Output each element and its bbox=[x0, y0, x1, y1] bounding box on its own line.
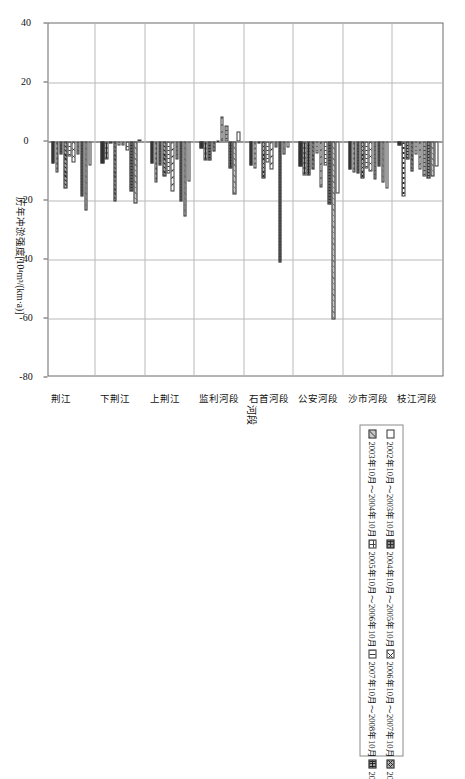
legend-label: 2003年10月～2004年10月 bbox=[366, 441, 378, 537]
legend-swatch bbox=[386, 539, 394, 548]
bar bbox=[166, 141, 170, 173]
bar bbox=[397, 141, 401, 145]
bar bbox=[55, 141, 59, 172]
value-axis-tick-label: 40 bbox=[11, 17, 41, 28]
bar bbox=[385, 141, 389, 188]
legend-label: 2006年10月～2007年10月 bbox=[384, 661, 396, 757]
bar bbox=[51, 141, 55, 163]
bar bbox=[67, 141, 71, 156]
bar bbox=[327, 141, 331, 204]
bar bbox=[348, 141, 352, 169]
bar bbox=[373, 141, 377, 179]
bar bbox=[405, 141, 409, 159]
bar bbox=[356, 141, 360, 173]
category-axis-label: 上荆江 bbox=[149, 390, 179, 404]
bar bbox=[323, 141, 327, 165]
bar bbox=[286, 141, 290, 147]
bar bbox=[352, 141, 356, 172]
legend-swatch bbox=[368, 759, 376, 768]
bar bbox=[381, 141, 385, 182]
bar bbox=[207, 141, 211, 160]
category-gridline bbox=[194, 23, 195, 375]
value-axis-tick bbox=[43, 22, 47, 23]
category-gridline bbox=[95, 23, 96, 375]
value-axis-tick-label: 20 bbox=[11, 76, 41, 87]
chart-legend: 2002年10月～2003年10月2004年10月～2005年10月2006年1… bbox=[359, 424, 403, 756]
bar bbox=[162, 141, 166, 176]
legend-item[interactable]: 2009年10月～2010年10月 bbox=[363, 759, 381, 779]
category-axis-label: 枝江河段 bbox=[396, 390, 436, 404]
legend-swatch bbox=[386, 429, 394, 438]
bar bbox=[261, 141, 265, 178]
bar bbox=[179, 141, 183, 201]
bar bbox=[71, 141, 75, 162]
category-gridline bbox=[144, 23, 145, 375]
category-axis-title: 河段 bbox=[244, 404, 259, 424]
legend-item[interactable]: 2002年10月～2003年10月 bbox=[381, 429, 399, 537]
value-gridline bbox=[48, 82, 442, 83]
legend-item[interactable]: 2006年10月～2007年10月 bbox=[381, 649, 399, 757]
bar bbox=[199, 141, 203, 148]
legend-swatch bbox=[368, 649, 376, 658]
bar bbox=[175, 141, 179, 159]
bar bbox=[426, 141, 430, 178]
value-axis-tick bbox=[43, 140, 47, 141]
bar bbox=[364, 141, 368, 168]
bar bbox=[414, 141, 418, 154]
value-axis-tick-label: -20 bbox=[11, 194, 41, 205]
category-axis-label: 沙市河段 bbox=[347, 390, 387, 404]
bar bbox=[59, 141, 63, 154]
bar bbox=[108, 141, 112, 143]
legend-swatch bbox=[368, 539, 376, 548]
value-gridline bbox=[48, 318, 442, 319]
bar bbox=[154, 141, 158, 182]
plot-area bbox=[47, 22, 443, 376]
category-axis-label: 荆江 bbox=[50, 390, 70, 404]
bar bbox=[335, 141, 339, 193]
bar bbox=[434, 141, 438, 166]
bar bbox=[187, 141, 191, 181]
bar bbox=[315, 141, 319, 153]
bar bbox=[236, 131, 240, 141]
bar bbox=[410, 141, 414, 171]
legend-item[interactable]: 2005年10月～2006年10月 bbox=[363, 539, 381, 647]
bar bbox=[269, 141, 273, 169]
bar bbox=[76, 141, 80, 154]
bar bbox=[170, 141, 174, 191]
value-axis-tick bbox=[43, 317, 47, 318]
bar bbox=[104, 141, 108, 159]
bar bbox=[249, 141, 253, 165]
category-axis-label: 石首河段 bbox=[248, 390, 288, 404]
bar bbox=[306, 141, 310, 175]
bar bbox=[133, 141, 137, 203]
bar bbox=[368, 141, 372, 171]
category-axis-label: 公安河段 bbox=[297, 390, 337, 404]
legend-item[interactable]: 2004年10月～2005年10月 bbox=[381, 539, 399, 647]
bar bbox=[265, 141, 269, 162]
value-gridline bbox=[48, 200, 442, 201]
bar bbox=[401, 141, 405, 196]
category-gridline bbox=[243, 23, 244, 375]
value-axis-tick bbox=[43, 199, 47, 200]
bar bbox=[125, 141, 129, 150]
bar bbox=[80, 141, 84, 196]
legend-label: 2007年10月～2008年10月 bbox=[366, 661, 378, 757]
bar bbox=[212, 141, 216, 151]
category-axis-label: 监利河段 bbox=[198, 390, 238, 404]
legend-item[interactable]: 2003年10月～2004年10月 bbox=[363, 429, 381, 537]
legend-label: 2008年10月～2009年10月 bbox=[384, 771, 396, 779]
legend-swatch bbox=[386, 649, 394, 658]
bar bbox=[220, 116, 224, 141]
value-gridline bbox=[48, 259, 442, 260]
bar bbox=[274, 141, 278, 147]
value-axis-tick-label: -60 bbox=[11, 312, 41, 323]
legend-swatch bbox=[386, 759, 394, 768]
legend-swatch bbox=[368, 429, 376, 438]
legend-label: 2004年10月～2005年10月 bbox=[384, 551, 396, 647]
value-axis-tick-label: 0 bbox=[11, 135, 41, 146]
bar bbox=[430, 141, 434, 176]
legend-item[interactable]: 2008年10月～2009年10月 bbox=[381, 759, 399, 779]
bar bbox=[278, 141, 282, 262]
value-axis-tick bbox=[43, 258, 47, 259]
legend-item[interactable]: 2007年10月～2008年10月 bbox=[363, 649, 381, 757]
